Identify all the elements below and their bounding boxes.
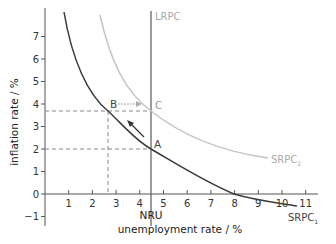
y-tick-label: 0 [33, 189, 39, 200]
x-tick-label: 6 [184, 198, 190, 209]
nru-label: NRU [140, 209, 163, 221]
x-tick-labels: 1 2 3 4 5 6 7 8 9 10 11 [66, 198, 313, 209]
y-tick-labels: −1 0 1 2 3 4 5 6 7 [24, 31, 39, 222]
x-tick-label: 11 [299, 198, 312, 209]
point-c-label: C [155, 99, 162, 111]
reference-lines [45, 111, 151, 194]
y-tick-label: 5 [33, 76, 39, 87]
x-tick-label: 2 [89, 198, 95, 209]
y-tick-label: 6 [33, 54, 39, 65]
srpc1-label: SRPC1 [288, 212, 318, 225]
y-tick-label: 2 [33, 144, 39, 155]
y-tick-label: −1 [24, 211, 39, 222]
y-tick-label: 3 [33, 121, 39, 132]
x-tick-label: 5 [160, 198, 166, 209]
x-tick-label: 7 [208, 198, 214, 209]
arrow-b-to-c [118, 101, 142, 107]
x-tick-label: 4 [137, 198, 143, 209]
x-axis-title: unemployment rate / % [118, 223, 243, 235]
arrow-a-to-b [127, 120, 144, 137]
y-axis-title: inflation rate / % [8, 78, 20, 166]
x-tick-label: 1 [66, 198, 72, 209]
lrpc-label: LRPC [155, 11, 181, 22]
point-b-label: B [110, 98, 117, 110]
srpc2-curve [100, 15, 268, 158]
y-tick-label: 4 [33, 99, 39, 110]
x-ticks [69, 190, 306, 194]
x-tick-label: 8 [231, 198, 237, 209]
y-ticks [41, 37, 45, 217]
y-tick-label: 7 [33, 31, 39, 42]
x-tick-label: 3 [113, 198, 119, 209]
point-a-label: A [154, 138, 162, 150]
y-tick-label: 1 [33, 166, 39, 177]
srpc1-curve [64, 12, 297, 206]
srpc2-label: SRPC2 [271, 154, 301, 167]
phillips-curve-chart: −1 0 1 2 3 4 5 6 7 1 2 3 4 5 6 7 8 9 10 … [0, 0, 336, 244]
